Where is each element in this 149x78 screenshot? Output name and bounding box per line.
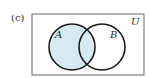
set-a-label: A [54,29,62,40]
set-b-label: B [109,29,117,40]
part-label: (c) [11,12,25,23]
universe-label: U [131,16,140,27]
venn-diagram: (c) A B U [0,0,149,78]
